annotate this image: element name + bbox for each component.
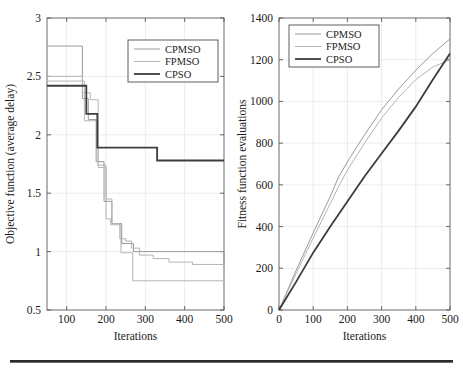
legend-label-fpmso: FPMSO xyxy=(326,41,361,52)
legend-label-cpso: CPSO xyxy=(165,69,192,80)
y-tick-label: 600 xyxy=(256,179,274,191)
objective-function-plot: 1002003004005000.511.522.53IterationsObj… xyxy=(0,0,240,345)
y-tick-label: 2 xyxy=(35,129,41,141)
y-tick-label: 1000 xyxy=(250,95,273,107)
x-tick-label: 400 xyxy=(176,313,194,325)
x-tick-label: 0 xyxy=(276,313,282,325)
fitness-evaluations-chart-panel: 0100200300400500020040060080010001200140… xyxy=(232,0,463,345)
x-tick-label: 100 xyxy=(305,313,323,325)
y-tick-label: 1200 xyxy=(250,54,273,66)
y-axis-title: Fitness function evaluations xyxy=(236,99,248,229)
horizontal-rule xyxy=(10,360,453,363)
objective-function-chart-panel: 1002003004005000.511.522.53IterationsObj… xyxy=(0,0,240,345)
y-tick-label: 0 xyxy=(267,304,273,316)
y-tick-label: 2.5 xyxy=(27,70,42,82)
y-tick-label: 400 xyxy=(256,221,274,233)
y-tick-label: 3 xyxy=(35,12,41,24)
figure-container: 1002003004005000.511.522.53IterationsObj… xyxy=(0,0,463,345)
legend-label-cpso: CPSO xyxy=(326,54,353,65)
y-tick-label: 1 xyxy=(35,246,41,258)
x-tick-label: 500 xyxy=(441,313,459,325)
y-axis-title: Objective function (average delay) xyxy=(4,84,17,244)
fitness-evaluations-plot: 0100200300400500020040060080010001200140… xyxy=(232,0,463,345)
legend-label-cpmso: CPMSO xyxy=(165,44,201,55)
x-tick-label: 300 xyxy=(373,313,391,325)
x-axis-title: Iterations xyxy=(114,330,158,342)
y-tick-label: 200 xyxy=(256,262,274,274)
data-line-cpmso xyxy=(279,39,450,310)
y-tick-label: 0.5 xyxy=(27,304,42,316)
y-tick-label: 800 xyxy=(256,137,274,149)
x-tick-label: 500 xyxy=(215,313,233,325)
x-tick-label: 200 xyxy=(339,313,357,325)
x-axis-title: Iterations xyxy=(343,330,387,342)
x-tick-label: 400 xyxy=(407,313,425,325)
legend-label-fpmso: FPMSO xyxy=(165,56,200,67)
data-line-fpmso xyxy=(47,76,224,266)
y-tick-label: 1400 xyxy=(250,12,273,24)
legend-label-cpmso: CPMSO xyxy=(326,29,362,40)
data-line-cpso xyxy=(47,86,224,161)
data-line-fpmso-lower xyxy=(47,81,224,289)
x-tick-label: 200 xyxy=(97,313,115,325)
y-tick-label: 1.5 xyxy=(27,187,42,199)
data-line-cpso xyxy=(279,53,450,310)
x-tick-label: 100 xyxy=(58,313,76,325)
x-tick-label: 300 xyxy=(137,313,155,325)
